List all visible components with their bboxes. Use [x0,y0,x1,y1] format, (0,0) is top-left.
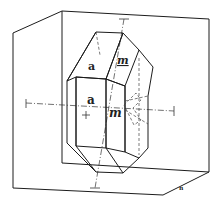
face-front-a [76,77,106,148]
label-top-a: a [88,60,95,73]
crystal [67,32,153,173]
bottom-front-slope [76,146,96,172]
vertical-axis [95,19,124,188]
crystal-axes [26,19,174,188]
bottom-right-slope [139,148,148,158]
bounding-box [13,11,209,195]
box-back-top [62,11,209,172]
horizontal-axis [26,103,174,111]
crystal-figure: a m a m n [0,0,223,204]
box-left-face [13,11,62,188]
label-side-m: m [109,106,122,120]
top-right-slope [139,50,153,96]
label-front-a: a [87,93,95,107]
hidden-diag-2 [125,110,148,124]
label-top-m: m [117,54,129,67]
hidden-top-edge [96,32,100,55]
crystal-diagram-svg: a m a m n [0,0,223,204]
top-left-slope [67,32,96,81]
label-corner-n: n [179,184,184,191]
box-floor-back [62,163,209,172]
